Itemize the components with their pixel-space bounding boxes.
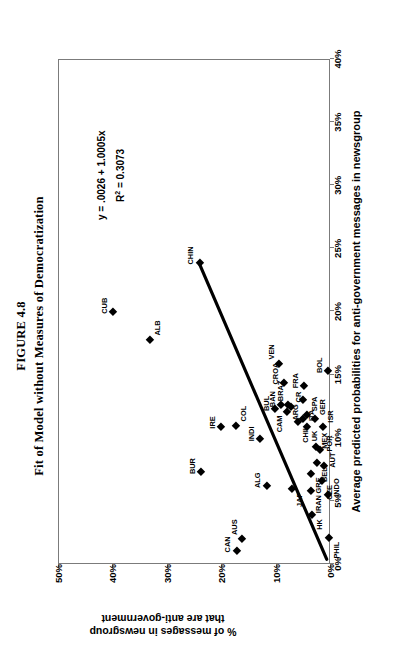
data-point-label: CAN [224,536,231,552]
data-point-label: CUB [101,298,108,314]
figure-canvas: FIGURE 4.8 Fit of Model without Measures… [0,0,394,672]
data-point-label: IRE [209,416,216,428]
data-point-label: AUT [329,453,336,468]
x-tick-label: 15% [332,365,343,384]
data-point-label: ALB [154,320,161,335]
data-point-label: BOL [316,358,323,374]
data-point-label: FRA [292,373,299,388]
x-tick-label: 35% [332,113,343,132]
data-point-label: JAP [296,493,303,507]
regression-equation-label: y = .0026 + 1.0005x [96,130,107,220]
data-point-label: BRAZ [277,381,284,402]
x-tick-label: 40% [332,49,343,68]
y-tick-label: 20% [216,564,227,588]
y-tick-label: 50% [53,564,64,588]
data-point-label: COL [240,406,247,422]
data-point-label: AUS [231,519,238,535]
y-tick-label: 40% [107,564,118,588]
data-point-label: IRAN [315,495,322,513]
x-tick-label: 30% [332,176,343,195]
y-tick-label: 0% [325,564,336,588]
data-point-label: CHIN [187,246,194,264]
rotated-page-wrapper: FIGURE 4.8 Fit of Model without Measures… [0,0,394,672]
r-squared-label: R2 = 0.3073 [114,149,126,202]
x-axis-title: Average predicted probabilities for anti… [350,59,362,564]
y-axis-title: % of messages in newsgroup that are anti… [78,612,248,638]
data-point-label: ALG [254,472,261,488]
data-point-label: HK [316,519,323,530]
y-axis-title-line2: that are anti-government [78,612,248,625]
data-point-label: ISR [327,410,334,422]
x-tick-label: 5% [332,494,343,508]
figure-caption: Fit of Model without Measures of Democra… [32,0,47,672]
data-point-label: VEN [268,344,275,359]
x-tick-label: 25% [332,239,343,258]
y-tick-label: 30% [161,564,172,588]
y-tick-label: 10% [270,564,281,588]
r-squared-exponent: 2 [114,191,121,195]
data-point-label: UK [311,431,318,442]
data-point-label: BUR [189,458,196,474]
x-tick-label: 20% [332,302,343,321]
data-point-label: INDI [248,426,255,441]
figure-number: FIGURE 4.8 [14,0,29,672]
x-tick-label: 10% [332,428,343,447]
r-squared-prefix: R [115,195,126,202]
data-point-label: CAM [276,416,283,433]
r-squared-value: = 0.3073 [115,149,126,191]
y-axis-title-line1: % of messages in newsgroup [78,625,248,638]
